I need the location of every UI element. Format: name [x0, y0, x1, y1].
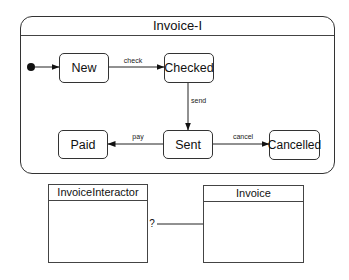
state-label: Paid — [70, 138, 95, 152]
class-name: InvoiceInteractor — [49, 185, 147, 201]
state-label: New — [71, 61, 96, 75]
class-invoiceinteractor[interactable]: InvoiceInteractor — [48, 184, 148, 263]
state-checked[interactable]: Checked — [164, 53, 214, 83]
state-new[interactable]: New — [59, 53, 109, 83]
transition-label-check: check — [118, 57, 148, 64]
state-sent[interactable]: Sent — [163, 130, 213, 159]
class-invoice[interactable]: Invoice — [203, 185, 304, 263]
state-paid[interactable]: Paid — [58, 130, 108, 159]
transition-label-send: send — [191, 97, 213, 104]
transition-label-cancel: cancel — [228, 133, 258, 140]
state-cancelled[interactable]: Cancelled — [269, 130, 320, 160]
class-name: Invoice — [204, 186, 303, 202]
state-label: Cancelled — [268, 138, 321, 152]
state-label: Sent — [175, 138, 201, 152]
association-label: ? — [148, 218, 156, 229]
state-label: Checked — [164, 61, 213, 75]
initial-state-dot — [27, 63, 35, 71]
transition-label-pay: pay — [128, 133, 148, 140]
